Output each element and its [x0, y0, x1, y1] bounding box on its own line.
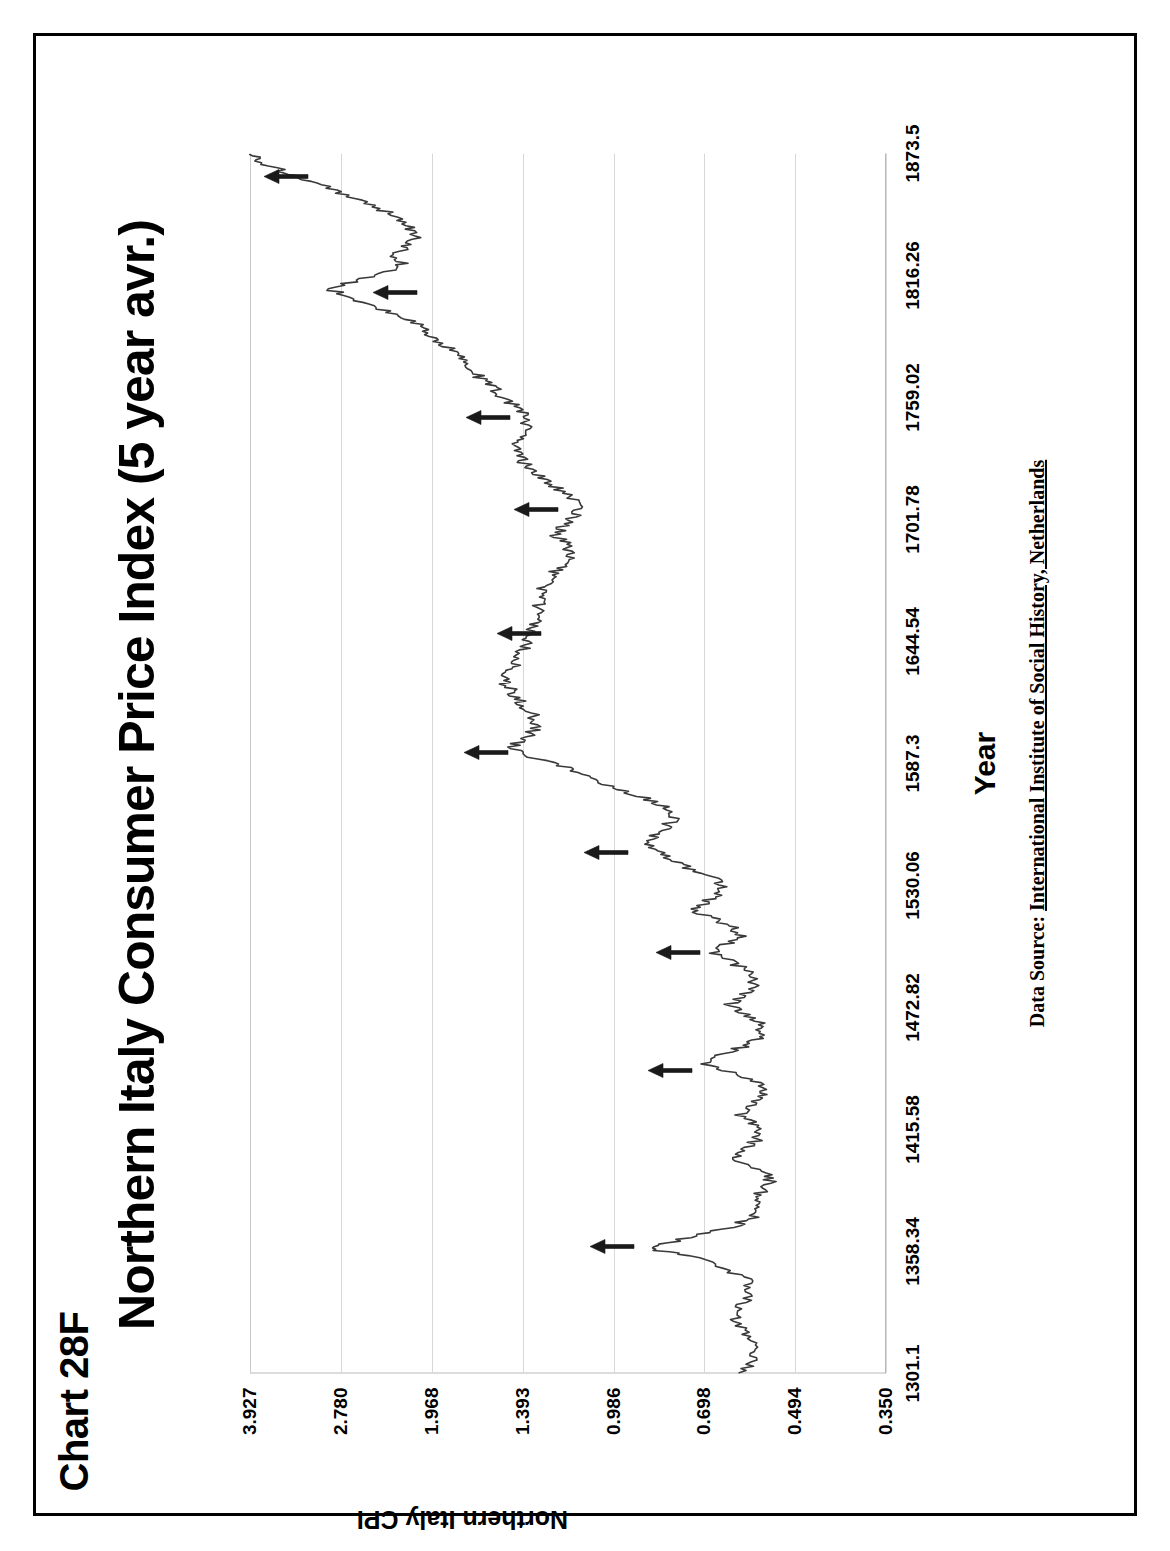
peak-marker-3-arrow-icon [656, 944, 700, 960]
chart-card: Chart 28F Northern Italy Consumer Price … [36, 36, 1134, 1513]
y-tick-1.968: 1.968 [421, 1387, 443, 1459]
peak-marker-6-arrow-icon [497, 625, 541, 641]
x-tick-1472.82: 1472.82 [902, 973, 924, 1042]
x-tick-1816.26: 1816.26 [902, 241, 924, 310]
cpi-line-series [250, 153, 885, 1372]
x-tick-1530.06: 1530.06 [902, 851, 924, 920]
chart-title: Northern Italy Consumer Price Index (5 y… [108, 36, 166, 1513]
rotated-chart-wrapper: Chart 28F Northern Italy Consumer Price … [36, 36, 1134, 1513]
peak-marker-1-arrow-icon [590, 1239, 634, 1255]
plot-area [250, 153, 886, 1373]
chart-number-label: Chart 28F [52, 1311, 97, 1491]
data-source-value: International Institute of Social Histor… [1026, 459, 1048, 910]
y-tick-0.698: 0.698 [693, 1387, 715, 1459]
x-tick-1644.54: 1644.54 [902, 607, 924, 676]
x-tick-1301.1: 1301.1 [902, 1344, 924, 1402]
data-source-prefix: Data Source: [1026, 915, 1048, 1026]
gridline-y-0.350 [886, 153, 887, 1372]
peak-marker-7-arrow-icon [514, 501, 558, 517]
x-axis-title: Year [968, 153, 1002, 1373]
peak-marker-10-arrow-icon [264, 169, 308, 185]
x-tick-1759.02: 1759.02 [902, 363, 924, 432]
x-tick-1415.58: 1415.58 [902, 1095, 924, 1164]
peak-marker-4-arrow-icon [584, 844, 628, 860]
peak-marker-2-arrow-icon [648, 1062, 692, 1078]
y-tick-1.393: 1.393 [512, 1387, 534, 1459]
x-tick-1358.34: 1358.34 [902, 1217, 924, 1286]
peak-marker-8-arrow-icon [466, 409, 510, 425]
y-tick-0.494: 0.494 [784, 1387, 806, 1459]
y-axis-title: Northern Italy CPI [357, 1504, 568, 1533]
x-tick-1873.5: 1873.5 [902, 124, 924, 182]
y-tick-0.986: 0.986 [603, 1387, 625, 1459]
peak-marker-9-arrow-icon [373, 284, 417, 300]
y-tick-2.780: 2.780 [330, 1387, 352, 1459]
y-tick-3.927: 3.927 [239, 1387, 261, 1459]
y-tick-0.350: 0.350 [875, 1387, 897, 1459]
x-tick-1701.78: 1701.78 [902, 485, 924, 554]
peak-marker-5-arrow-icon [464, 744, 508, 760]
scanned-page-frame: Chart 28F Northern Italy Consumer Price … [33, 33, 1137, 1516]
x-tick-1587.3: 1587.3 [902, 734, 924, 792]
data-source-note: Data Source: International Institute of … [1026, 113, 1049, 1373]
